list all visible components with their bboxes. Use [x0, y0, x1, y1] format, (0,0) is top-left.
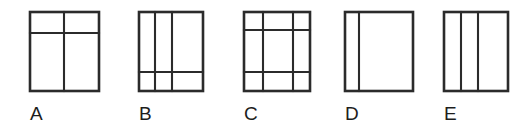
figure-a-drawing: [24, 6, 105, 97]
figure-c: [238, 6, 316, 97]
figure-label-e: E: [444, 104, 457, 123]
figure-c-outline: [244, 12, 310, 91]
figure-d-drawing: [339, 6, 419, 97]
figure-d-outline: [345, 12, 413, 91]
figure-c-drawing: [238, 6, 316, 97]
figure-d: [339, 6, 419, 97]
figure-label-a: A: [30, 104, 43, 123]
figure-b: [133, 6, 209, 97]
figure-sheet: ABCDE: [0, 0, 531, 126]
figure-label-c: C: [244, 104, 258, 123]
figure-e-outline: [444, 12, 508, 91]
figure-label-d: D: [345, 104, 359, 123]
figure-a: [24, 6, 105, 97]
figure-e: [438, 6, 514, 97]
figure-label-b: B: [139, 104, 152, 123]
figure-b-drawing: [133, 6, 209, 97]
figure-e-drawing: [438, 6, 514, 97]
